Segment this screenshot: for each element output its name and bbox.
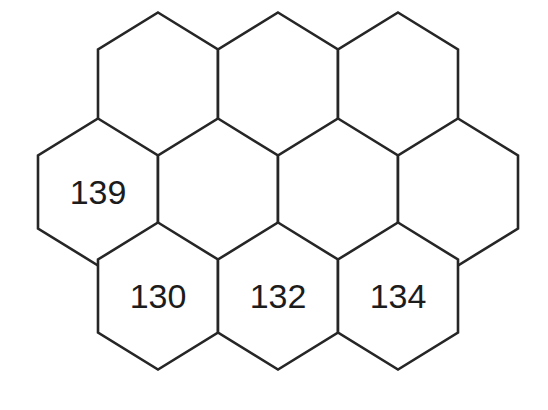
- hexagon-cell-label: 130: [130, 277, 187, 315]
- hexagon-cell-label: 134: [370, 277, 427, 315]
- hexagon-grid-canvas: 139130132134: [0, 0, 548, 410]
- hexagon-grid-figure: 139130132134: [0, 0, 548, 410]
- hexagon-cell-label: 132: [250, 277, 307, 315]
- hexagon-cell-label: 139: [70, 173, 127, 211]
